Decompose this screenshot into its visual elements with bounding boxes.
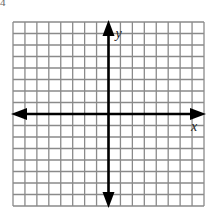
problem-number: 4 [0,0,6,8]
coordinate-plane-figure: 4 x y [0,0,212,219]
coordinate-grid: x y [0,0,212,219]
axes [11,20,206,208]
y-axis-label: y [114,26,123,41]
x-axis-label: x [190,119,198,134]
